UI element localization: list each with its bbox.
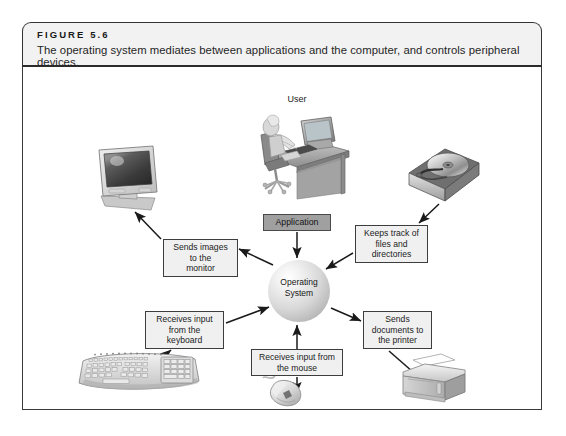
label-line-2: files and [364, 239, 419, 249]
figure-caption: The operating system mediates between ap… [37, 44, 529, 68]
label-line-1: Sends images [173, 242, 227, 252]
label-line-3: monitor [173, 263, 227, 273]
os-label-line2: System [268, 288, 330, 299]
ergonomic-keyboard-image [75, 347, 203, 397]
user-label: User [266, 94, 328, 104]
os-label-line1: Operating [268, 277, 330, 288]
label-box-receives-input-from-mouse: Receives input from the mouse [251, 349, 343, 376]
label-box-sends-documents-to-printer: Sends documents to the printer [363, 311, 432, 349]
user-at-desk-image [245, 105, 357, 201]
label-line-2: documents to [372, 325, 424, 335]
arrow-hdd-label-to-os [326, 253, 353, 269]
laser-printer-image [395, 352, 473, 408]
label-line-2: the mouse [259, 363, 335, 373]
label-line-1: Receives input from [259, 352, 335, 362]
figure-header: FIGURE 5.6 The operating system mediates… [22, 22, 542, 67]
arrow-os-to-printer-label [331, 308, 361, 321]
label-line-2: to the [173, 253, 227, 263]
arrow-keyboard-label-to-os [226, 307, 269, 323]
arrow-os-to-monitor-label [239, 249, 273, 265]
figure-container: FIGURE 5.6 The operating system mediates… [22, 22, 544, 412]
label-line-1: Receives input [156, 314, 212, 324]
application-box: Application [263, 214, 331, 231]
figure-body: Operating System Application User Sends … [22, 67, 542, 410]
computer-mouse-image [259, 372, 313, 414]
label-line-3: directories [364, 249, 419, 259]
crt-monitor-image [95, 144, 169, 216]
hard-disk-drive-image [403, 139, 483, 209]
label-line-1: Sends [372, 314, 424, 324]
label-line-3: the printer [372, 335, 424, 345]
label-line-3: keyboard [156, 335, 212, 345]
label-box-keeps-track-of-files: Keeps track of files and directories [355, 225, 428, 263]
label-box-sends-images-to-monitor: Sends images to the monitor [163, 239, 238, 277]
arrow-monitor-label-to-monitor [135, 212, 161, 239]
figure-number: FIGURE 5.6 [37, 29, 110, 40]
label-line-2: from the [156, 325, 212, 335]
operating-system-label: Operating System [268, 277, 330, 298]
label-box-receives-input-from-keyboard: Receives input from the keyboard [145, 311, 224, 349]
label-line-1: Keeps track of [364, 228, 419, 238]
